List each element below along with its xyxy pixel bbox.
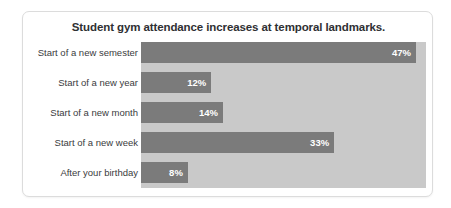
bar[interactable] [141,132,334,153]
bar-row: 8% [141,162,426,183]
category-label: Start of a new semester [18,42,138,63]
bar-value-label: 12% [187,72,206,93]
bar-row: 47% [141,42,426,63]
category-label: Start of a new week [18,132,138,153]
category-axis: Start of a new semester Start of a new y… [13,42,138,188]
bar-row: 33% [141,132,426,153]
bar-value-label: 8% [169,162,183,183]
bar-value-label: 47% [392,42,411,63]
bar[interactable] [141,42,416,63]
plot-area: 47% 12% 14% 33% 8% [141,42,426,188]
bar-value-label: 33% [310,132,329,153]
chart-title: Student gym attendance increases at temp… [23,21,434,33]
bar-row: 14% [141,102,426,123]
category-label: After your birthday [18,162,138,183]
category-label: Start of a new year [18,72,138,93]
bar-row: 12% [141,72,426,93]
category-label: Start of a new month [18,102,138,123]
chart-card: Student gym attendance increases at temp… [22,11,433,197]
bar-value-label: 14% [199,102,218,123]
